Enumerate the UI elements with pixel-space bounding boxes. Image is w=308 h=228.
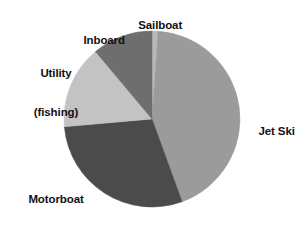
pie-label-utility-line2: (fishing) xyxy=(14,106,98,119)
pie-chart: Sailboat Inboard Utility (fishing) Motor… xyxy=(0,0,308,228)
pie-label-utility: Utility (fishing) xyxy=(14,41,98,145)
pie-label-sailboat-text: Sailboat xyxy=(138,19,182,31)
pie-label-utility-line1: Utility xyxy=(14,67,98,80)
pie-label-jetski-text: Jet Ski xyxy=(258,125,294,137)
pie-label-motorboat-text: Motorboat xyxy=(28,193,83,205)
pie-label-jetski: Jet Ski xyxy=(246,112,306,151)
pie-label-motorboat: Motorboat xyxy=(16,180,112,219)
